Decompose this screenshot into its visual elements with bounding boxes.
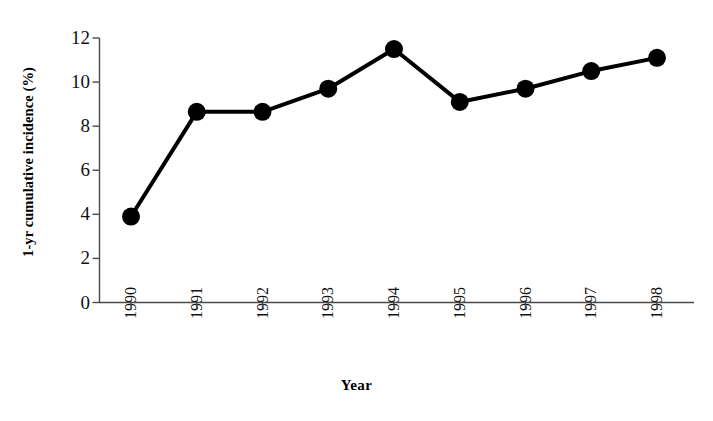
data-point-markers	[122, 40, 666, 226]
data-point-marker	[582, 62, 600, 80]
plot-area	[0, 0, 713, 421]
axis-lines	[100, 38, 695, 303]
data-point-marker	[648, 49, 666, 67]
chart-figure: 1-yr cumulative incidence (%) 024681012 …	[0, 0, 713, 421]
data-point-marker	[319, 80, 337, 98]
data-point-marker	[254, 103, 272, 121]
data-point-marker	[385, 40, 403, 58]
y-axis-ticks	[93, 38, 100, 303]
data-point-marker	[451, 93, 469, 111]
data-line-series	[131, 49, 657, 217]
data-point-marker	[517, 80, 535, 98]
x-axis-title: Year	[0, 377, 713, 394]
data-point-marker	[122, 208, 140, 226]
x-axis-ticks	[131, 303, 657, 310]
data-point-marker	[188, 103, 206, 121]
